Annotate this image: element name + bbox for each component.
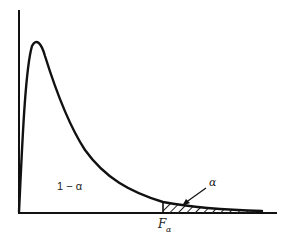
tail-arrow	[185, 188, 206, 203]
critical-value-subscript: α	[166, 225, 172, 234]
tail-area-label: α	[209, 176, 217, 189]
body-area-label: 1 − α	[57, 180, 83, 192]
f-distribution-diagram: 1 − α α F α	[0, 0, 288, 244]
density-curve	[19, 42, 262, 212]
